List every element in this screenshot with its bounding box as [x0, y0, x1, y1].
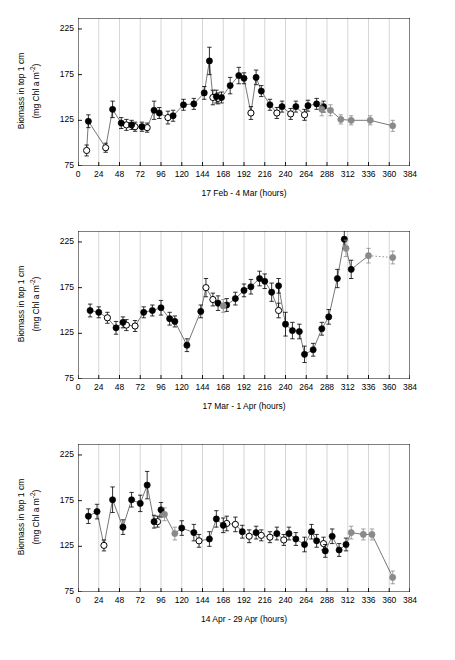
data-point — [301, 346, 307, 362]
marker-open-circle — [274, 110, 280, 116]
y-tick-label: 225 — [48, 23, 74, 33]
marker-filled-circle — [286, 530, 292, 536]
x-tick-label: 384 — [397, 169, 423, 179]
marker-open-circle — [132, 323, 138, 329]
data-point — [241, 284, 247, 297]
data-point — [167, 312, 173, 325]
data-point — [85, 509, 91, 524]
chart-panel-3: 7512517522502448729612014416819221624026… — [0, 426, 455, 639]
marker-filled-grey-circle — [220, 303, 226, 309]
marker-filled-circle — [191, 530, 197, 536]
marker-filled-circle — [129, 497, 135, 503]
data-point — [129, 492, 135, 507]
marker-filled-circle — [279, 104, 285, 110]
marker-filled-grey-circle — [390, 123, 396, 129]
data-point — [248, 107, 254, 120]
data-point — [326, 310, 332, 325]
marker-open-circle — [104, 315, 110, 321]
data-point — [293, 533, 299, 546]
data-point — [87, 304, 93, 317]
marker-open-circle — [232, 521, 238, 527]
marker-filled-circle — [118, 120, 124, 126]
marker-filled-circle — [94, 509, 100, 515]
data-point — [390, 251, 396, 264]
y-tick-label: 175 — [48, 282, 74, 292]
marker-filled-circle — [248, 284, 254, 290]
data-point — [227, 77, 233, 93]
marker-filled-circle — [201, 90, 207, 96]
y-tick-label: 125 — [48, 114, 74, 124]
marker-filled-circle — [319, 326, 325, 332]
marker-filled-grey-circle — [360, 531, 366, 537]
marker-filled-circle — [293, 536, 299, 542]
data-point — [281, 534, 287, 545]
data-point — [348, 260, 354, 278]
marker-open-circle — [320, 540, 326, 546]
data-point — [365, 248, 371, 263]
marker-filled-grey-circle — [369, 531, 375, 537]
marker-filled-circle — [120, 319, 126, 325]
data-point — [203, 279, 209, 297]
y-tick-label: 175 — [48, 69, 74, 79]
marker-filled-grey-circle — [327, 107, 333, 113]
data-point — [314, 98, 320, 109]
marker-filled-grey-circle — [390, 574, 396, 580]
data-point — [149, 305, 155, 316]
x-axis-title: 14 Apr - 29 Apr (hours) — [78, 614, 410, 624]
marker-filled-circle — [158, 305, 164, 311]
marker-filled-circle — [301, 541, 307, 547]
chart-panel-2: 7512517522502448729612014416819221624026… — [0, 213, 455, 426]
data-point — [267, 532, 273, 543]
marker-open-circle — [288, 111, 294, 117]
marker-filled-circle — [170, 113, 176, 119]
data-point — [390, 120, 396, 131]
data-point — [104, 312, 110, 323]
marker-filled-circle — [269, 289, 275, 295]
marker-filled-circle — [329, 533, 335, 539]
y-tick-label: 175 — [48, 495, 74, 505]
data-point — [282, 312, 288, 336]
marker-filled-circle — [179, 525, 185, 531]
x-tick-label: 384 — [397, 595, 423, 605]
data-point — [170, 110, 176, 121]
data-point — [334, 269, 340, 287]
marker-filled-circle — [267, 102, 273, 108]
marker-filled-circle — [326, 314, 332, 320]
marker-open-circle — [275, 307, 281, 313]
marker-filled-circle — [341, 236, 347, 242]
marker-filled-circle — [301, 351, 307, 357]
marker-open-circle — [301, 112, 307, 118]
data-point — [274, 108, 280, 119]
marker-filled-circle — [220, 522, 226, 528]
scatter-plot-1 — [78, 18, 410, 166]
marker-filled-circle — [262, 278, 268, 284]
y-tick-label: 225 — [48, 236, 74, 246]
figure-page: 7512517522502448729612014416819221624026… — [0, 0, 455, 660]
marker-filled-circle — [218, 94, 224, 100]
data-point — [274, 527, 280, 540]
marker-filled-circle — [184, 342, 190, 348]
data-point — [308, 524, 314, 539]
data-point — [360, 529, 366, 540]
marker-filled-circle — [241, 75, 247, 81]
marker-filled-grey-circle — [338, 116, 344, 122]
marker-filled-circle — [213, 516, 219, 522]
marker-filled-circle — [336, 547, 342, 553]
marker-filled-grey-circle — [367, 117, 373, 123]
chart-panel-1: 7512517522502448729612014416819221624026… — [0, 0, 455, 213]
marker-filled-circle — [308, 529, 314, 535]
data-point — [220, 300, 226, 313]
marker-filled-circle — [120, 524, 126, 530]
marker-filled-grey-circle — [172, 530, 178, 536]
marker-filled-grey-circle — [348, 530, 354, 536]
data-point — [113, 321, 119, 334]
marker-filled-circle — [275, 283, 281, 289]
marker-open-circle — [248, 110, 254, 116]
marker-filled-circle — [151, 519, 157, 525]
marker-filled-circle — [289, 327, 295, 333]
data-point — [367, 116, 373, 125]
marker-filled-circle — [239, 529, 245, 535]
data-point — [246, 530, 252, 543]
y-axis-title-line2: (mg Chl a m-2) — [27, 229, 41, 379]
marker-filled-circle — [156, 110, 162, 116]
